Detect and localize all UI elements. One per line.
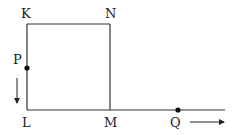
label-m: M (104, 115, 117, 130)
point-q (175, 107, 180, 112)
label-p: P (13, 52, 22, 67)
label-q: Q (170, 115, 181, 130)
label-l: L (22, 115, 31, 130)
label-k: K (21, 6, 31, 21)
point-p (24, 65, 29, 70)
label-n: N (105, 6, 116, 21)
diagram-canvas: K N P L M Q (0, 0, 236, 135)
